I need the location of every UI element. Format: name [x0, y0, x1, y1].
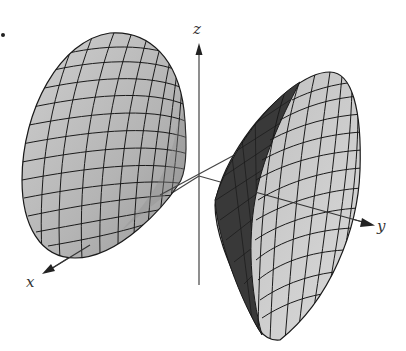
- z-axis-arrowhead: [196, 43, 203, 55]
- x-axis-label: x: [26, 275, 34, 290]
- y-axis-arrowhead: [360, 218, 375, 227]
- hyperboloid-figure: [0, 0, 406, 351]
- right-sheet: [215, 72, 362, 340]
- bullet-dot: [1, 33, 5, 37]
- y-axis-label: y: [377, 219, 385, 234]
- left-sheet: [22, 30, 188, 260]
- x-axis-arrowhead: [42, 264, 55, 274]
- z-axis-label: z: [193, 22, 201, 37]
